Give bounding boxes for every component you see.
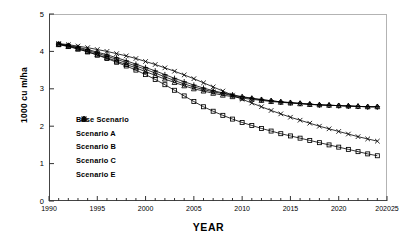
legend-item[interactable]: Scenario E [76, 167, 129, 181]
legend-item[interactable]: Scenario A [76, 127, 129, 141]
chart-container: 1000 cu m/ha YEAR 012345 199019952000200… [0, 0, 417, 247]
series-3 [56, 42, 379, 110]
y-tick-label: 2 [28, 122, 44, 131]
y-tick-label: 3 [28, 84, 44, 93]
y-tick-label: 5 [28, 10, 44, 19]
x-tick-label: 2000 [126, 205, 166, 212]
y-tick-label: 4 [28, 47, 44, 56]
x-tick-label: 2010 [222, 205, 262, 212]
legend-label: Scenario C [76, 156, 116, 165]
legend-label: Scenario E [76, 170, 116, 179]
series-4 [56, 42, 379, 109]
x-tick-label: 2005 [174, 205, 214, 212]
legend-item[interactable]: Scenario B [76, 140, 129, 154]
legend-label: Scenario B [76, 142, 116, 151]
series-2 [56, 41, 380, 109]
x-axis-title: YEAR [0, 221, 417, 233]
legend-label: Scenario A [76, 129, 116, 138]
x-tick-label: 202025 [367, 205, 407, 212]
legend-item[interactable]: Scenario C [76, 154, 129, 168]
legend-marker-cross-icon [76, 113, 92, 125]
x-tick-label: 2015 [270, 205, 310, 212]
x-tick-label: 1990 [29, 205, 69, 212]
y-tick-label: 1 [28, 159, 44, 168]
x-tick-label: 2020 [319, 205, 359, 212]
chart-legend: Base ScenarioScenario AScenario BScenari… [76, 113, 129, 181]
x-tick-label: 1995 [77, 205, 117, 212]
